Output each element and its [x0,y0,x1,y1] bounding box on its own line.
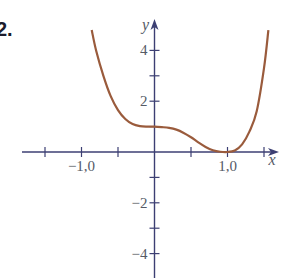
x-tick-label: 1,0 [218,158,237,174]
y-tick-label: −4 [132,246,148,262]
y-tick-label: −2 [132,195,148,211]
axes [22,19,279,278]
y-tick-label: 2 [140,93,148,109]
function-curve [92,30,269,152]
x-tick-label: −1,0 [68,158,95,174]
y-tick-label: 4 [140,42,148,58]
function-graph: −1,01,042−2−4xy [0,0,281,278]
x-axis-label: x [267,151,275,168]
tick-labels: −1,01,042−2−4xy [68,16,276,262]
y-axis-label: y [140,16,150,34]
